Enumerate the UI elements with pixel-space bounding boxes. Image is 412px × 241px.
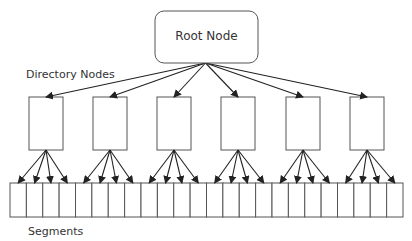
segment-cell — [338, 183, 354, 217]
segment-cell — [76, 183, 92, 217]
arrow-directory-to-segment — [35, 150, 46, 183]
segment-cell — [108, 183, 124, 217]
directory-node — [221, 97, 255, 150]
segment-cell — [387, 183, 403, 217]
directory-node — [286, 97, 320, 150]
segment-cell — [321, 183, 337, 217]
root-node-label: Root Node — [155, 29, 258, 43]
arrow-directory-to-segment — [303, 150, 313, 183]
arrow-directory-to-segment — [238, 150, 247, 183]
segment-cell — [207, 183, 223, 217]
segments-row — [10, 183, 403, 217]
directory-node — [29, 97, 63, 150]
segment-cell — [223, 183, 239, 217]
arrow-directory-to-segment — [303, 150, 329, 183]
segment-cell — [157, 183, 173, 217]
arrows — [18, 63, 395, 183]
directory-node — [157, 97, 191, 150]
segment-cell — [370, 183, 386, 217]
arrow-directory-to-segment — [367, 150, 395, 183]
directory-node — [350, 97, 384, 150]
segment-cell — [354, 183, 370, 217]
arrow-root-to-directory — [206, 63, 368, 97]
arrow-directory-to-segment — [346, 150, 367, 183]
arrow-directory-to-segment — [367, 150, 378, 183]
arrow-directory-to-segment — [362, 150, 367, 183]
segment-cell — [190, 183, 206, 217]
segment-cell — [26, 183, 42, 217]
segment-cell — [174, 183, 190, 217]
segment-cell — [10, 183, 26, 217]
arrow-directory-to-segment — [18, 150, 46, 183]
arrow-directory-to-segment — [84, 150, 110, 183]
arrow-directory-to-segment — [238, 150, 264, 183]
directory-nodes-label: Directory Nodes — [26, 68, 115, 81]
segment-cell — [288, 183, 304, 217]
directory-node — [93, 97, 127, 150]
segment-cell — [92, 183, 108, 217]
arrow-directory-to-segment — [46, 150, 51, 183]
segment-cell — [272, 183, 288, 217]
segment-cell — [59, 183, 75, 217]
segment-cell — [239, 183, 255, 217]
arrow-directory-to-segment — [46, 150, 67, 183]
arrow-directory-to-segment — [100, 150, 110, 183]
segment-cell — [141, 183, 157, 217]
segment-cell — [125, 183, 141, 217]
directory-nodes — [29, 97, 384, 150]
segments-label: Segments — [28, 225, 83, 238]
segment-cell — [305, 183, 321, 217]
segment-cell — [256, 183, 272, 217]
segment-cell — [43, 183, 59, 217]
